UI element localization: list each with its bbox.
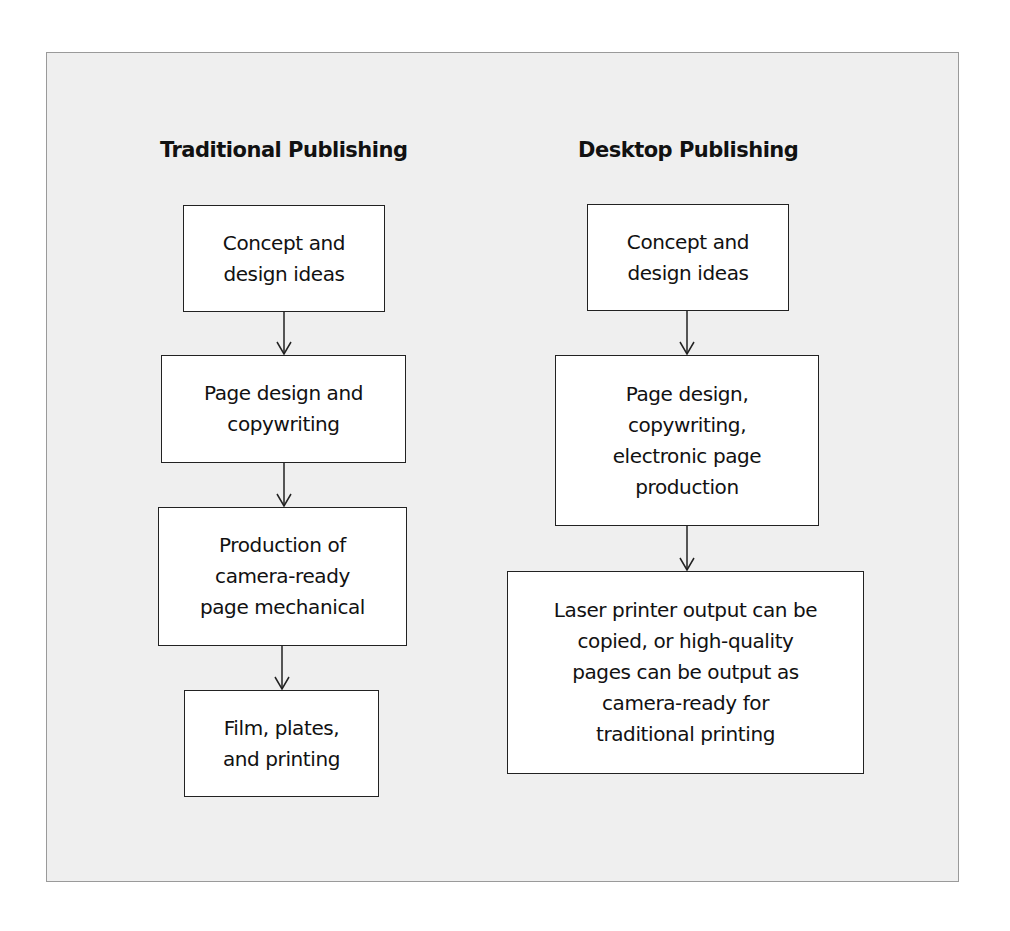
arrow-down-icon [680,526,694,570]
flow-arrows [0,0,1010,931]
arrow-down-icon [275,646,289,689]
arrow-down-icon [680,311,694,354]
arrow-down-icon [277,312,291,354]
arrow-down-icon [277,463,291,506]
